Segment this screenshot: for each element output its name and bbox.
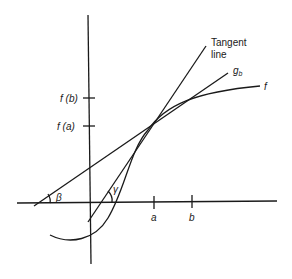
b-label: b <box>189 212 195 223</box>
tangent-label-line2: line <box>211 49 227 60</box>
y-axis <box>88 15 91 264</box>
diagram-canvas: Tangent line gb f f (b) f (a) a b β γ <box>0 0 292 279</box>
a-label: a <box>151 212 157 223</box>
tangent-line <box>88 46 206 222</box>
secant-label: gb <box>233 65 243 77</box>
tangent-label-line1: Tangent <box>211 37 247 48</box>
beta-label: β <box>55 192 62 203</box>
fa-label: f (a) <box>57 121 75 132</box>
gamma-arc <box>108 191 112 202</box>
fb-label: f (b) <box>60 93 78 104</box>
gamma-label: γ <box>113 184 119 195</box>
function-label: f <box>264 81 268 92</box>
